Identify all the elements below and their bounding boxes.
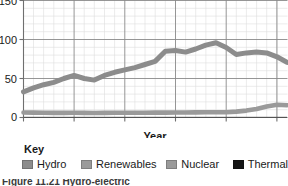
y-tick-label-50: 50 <box>5 73 17 85</box>
legend-item-thermal[interactable]: Thermal <box>233 158 288 170</box>
y-tick-label-150: 150 <box>0 0 17 7</box>
y-tick-label-100: 100 <box>0 34 17 46</box>
legend-item-renewables[interactable]: Renewables <box>81 158 157 170</box>
legend-item-hydro[interactable]: Hydro <box>22 158 66 170</box>
legend-item-nuclear[interactable]: Nuclear <box>166 158 219 170</box>
legend-swatch-nuclear-icon <box>166 160 177 169</box>
x-axis-title-svg: Year <box>0 122 288 138</box>
chart-legend: Key Hydro Renewables Nuclear Thermal <box>0 143 288 179</box>
chart-figure: 0 50 100 150 1980 1985 1990 1995 2000 20… <box>0 0 288 186</box>
figure-caption-clipped: Figure 11.21 Hydro-electric <box>0 179 288 186</box>
legend-swatch-thermal-icon <box>233 160 244 169</box>
legend-label-renewables: Renewables <box>96 158 157 170</box>
legend-label-nuclear: Nuclear <box>181 158 219 170</box>
legend-swatch-hydro-icon <box>22 160 33 169</box>
x-axis-ticks <box>24 118 277 122</box>
legend-items: Hydro Renewables Nuclear Thermal <box>22 158 288 170</box>
x-axis-title: Year <box>143 130 167 138</box>
legend-swatch-renewables-icon <box>81 160 92 169</box>
legend-title: Key <box>24 143 44 155</box>
legend-label-hydro: Hydro <box>37 158 66 170</box>
line-chart-svg: 0 50 100 150 1980 1985 1990 1995 2000 20… <box>0 0 288 124</box>
plot-area: 0 50 100 150 1980 1985 1990 1995 2000 20… <box>0 0 288 124</box>
figure-caption-text: Figure 11.21 Hydro-electric <box>2 179 130 186</box>
legend-label-thermal: Thermal <box>248 158 288 170</box>
y-axis-ticks <box>20 1 24 118</box>
